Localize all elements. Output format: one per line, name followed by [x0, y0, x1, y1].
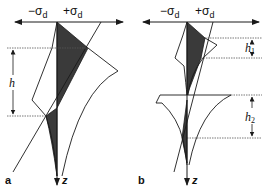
stress-envelope-upper-left: [175, 22, 187, 95]
panel-label-b: b: [138, 174, 145, 186]
panel-b: h1 h2 −σd +σd z b: [138, 4, 262, 186]
axis-label-positive: +σd: [63, 4, 82, 20]
shaded-region-upper: [57, 22, 88, 108]
dimension-label-h1: h1: [245, 41, 255, 56]
dimension-label-h: h: [9, 76, 15, 90]
depth-axis-label: z: [61, 174, 68, 186]
panel-a: h −σd +σd z a: [5, 4, 123, 186]
axis-label-negative: −σd: [160, 4, 179, 20]
shaded-region-lower: [46, 108, 57, 176]
depth-axis-label: z: [191, 174, 198, 186]
panel-label-a: a: [5, 174, 12, 186]
dimension-label-h2: h2: [245, 110, 255, 125]
stress-envelope-lower-right: [187, 95, 231, 165]
axis-label-negative: −σd: [28, 4, 47, 20]
stress-envelope-lower-left: [156, 95, 187, 165]
axis-label-positive: +σd: [195, 4, 214, 20]
stress-envelope-left: [32, 22, 57, 116]
stress-diagram: h −σd +σd z a: [0, 0, 266, 189]
